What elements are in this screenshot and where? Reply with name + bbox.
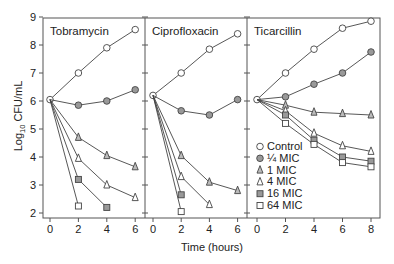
series-4 (50, 100, 110, 211)
plot-frame: 23456789 (30, 11, 380, 219)
x-tick-label: 2 (75, 223, 81, 235)
legend-item: 4 MIC (257, 175, 296, 187)
x-tick-label: 2 (282, 223, 288, 235)
y-tick-label: 6 (30, 95, 36, 107)
y-tick-label: 8 (30, 39, 36, 51)
panel-title: Tobramycin (50, 25, 109, 37)
legend-label: 16 MIC (267, 187, 303, 199)
series-0 (150, 31, 241, 99)
series-1 (50, 87, 139, 109)
series-0 (47, 26, 139, 103)
y-tick-label: 5 (30, 123, 36, 135)
series-1 (257, 49, 374, 100)
x-axis-label: Time (hours) (181, 241, 243, 253)
legend: Control¼ MIC1 MIC4 MIC16 MIC64 MIC (257, 140, 303, 211)
y-tick-label: 9 (30, 11, 36, 23)
legend-label: 64 MIC (267, 199, 303, 211)
x-tick-label: 6 (235, 223, 241, 235)
panel-ciprofloxacin: 0246Ciprofloxacin (142, 17, 241, 235)
x-tick-label: 2 (178, 223, 184, 235)
x-tick-label: 0 (150, 223, 156, 235)
legend-label: 1 MIC (267, 164, 296, 176)
legend-item: ¼ MIC (257, 152, 300, 164)
series-1 (153, 95, 241, 118)
y-tick-label: 4 (30, 151, 36, 163)
panel-ticarcillin: 02468Ticarcillin (244, 17, 374, 235)
x-tick-label: 4 (206, 223, 212, 235)
x-tick-label: 8 (368, 223, 374, 235)
y-tick-label: 2 (30, 207, 36, 219)
series-2 (50, 100, 138, 170)
x-tick-label: 4 (311, 223, 317, 235)
legend-item: 1 MIC (257, 164, 296, 176)
legend-label: 4 MIC (267, 175, 296, 187)
x-tick-label: 4 (104, 223, 110, 235)
legend-item: Control (257, 140, 303, 152)
series-2 (153, 95, 241, 193)
legend-item: 16 MIC (257, 187, 303, 199)
legend-item: 64 MIC (257, 199, 303, 211)
chart-canvas: 23456789 0246Tobramycin0246Ciprofloxacin… (0, 0, 394, 264)
x-tick-label: 0 (47, 223, 53, 235)
legend-label: Control (267, 140, 302, 152)
x-tick-label: 6 (132, 223, 138, 235)
panels: 0246Tobramycin0246Ciprofloxacin02468Tica… (47, 17, 375, 235)
y-tick-label: 3 (30, 179, 36, 191)
panel-title: Ciprofloxacin (152, 25, 218, 37)
x-tick-label: 0 (254, 223, 260, 235)
legend-label: ¼ MIC (267, 152, 299, 164)
time-kill-chart: 23456789 0246Tobramycin0246Ciprofloxacin… (0, 0, 394, 264)
y-tick-label: 7 (30, 67, 36, 79)
panel-tobramycin: 0246Tobramycin (47, 25, 139, 235)
y-axis-label: Log10 CFU/mL (12, 81, 27, 152)
x-tick-label: 6 (339, 223, 345, 235)
panel-title: Ticarcillin (254, 25, 302, 37)
